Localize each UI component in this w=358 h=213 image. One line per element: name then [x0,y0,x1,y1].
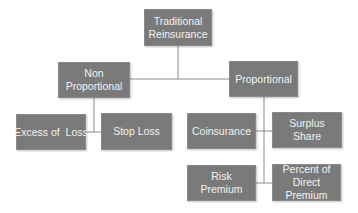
node-label: Percent ofDirect Premium [275,163,338,202]
node-risk-premium: Risk Premium [187,165,256,201]
node-proportional: Proportional [229,61,298,97]
node-traditional-reinsurance: TraditionalReinsurance [144,9,212,46]
node-label: TraditionalReinsurance [149,15,208,41]
node-excess-of-loss: Excess of Loss [16,114,86,150]
node-stop-loss: Stop Loss [101,113,172,150]
node-surplus-share: Surplus Share [272,112,342,148]
node-label: Surplus Share [275,117,339,143]
node-percent-of-direct-premium: Percent ofDirect Premium [272,164,341,201]
node-label: Proportional [235,73,292,86]
node-label: Stop Loss [113,125,160,138]
node-label: NonProportional [66,67,123,93]
node-label: Excess of Loss [14,126,88,139]
node-label: Risk Premium [190,170,253,196]
node-coinsurance: Coinsurance [187,113,256,149]
node-label: Coinsurance [192,125,251,138]
node-non-proportional: NonProportional [58,62,130,98]
